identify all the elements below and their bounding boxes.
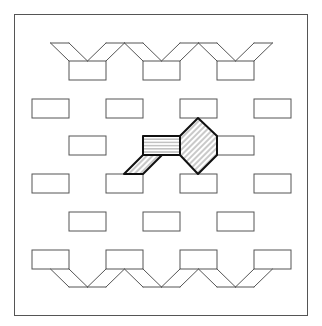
rectangle-tile xyxy=(254,174,291,193)
rectangle-tile xyxy=(217,212,254,231)
rectangle-tile xyxy=(69,61,106,80)
highlighted-rectangle xyxy=(143,136,180,155)
rectangle-tile xyxy=(32,174,69,193)
tessellation-diagram xyxy=(0,0,322,326)
rectangle-tile xyxy=(106,174,143,193)
rectangle-tile xyxy=(69,136,106,155)
rectangle-tile xyxy=(217,136,254,155)
rectangle-tile xyxy=(106,99,143,118)
tile-lines xyxy=(32,43,291,287)
rectangle-tile xyxy=(32,99,69,118)
rectangle-tile xyxy=(143,61,180,80)
rectangle-tile xyxy=(69,212,106,231)
highlighted-tiles xyxy=(124,118,217,174)
highlighted-hexagon xyxy=(180,118,217,174)
highlighted-parallelogram xyxy=(124,155,162,174)
rectangle-tile xyxy=(180,174,217,193)
rectangle-tile xyxy=(32,250,69,269)
rectangle-tile xyxy=(254,99,291,118)
rectangle-tile xyxy=(106,250,143,269)
rectangle-tile xyxy=(180,250,217,269)
rectangle-tile xyxy=(217,61,254,80)
rectangle-tile xyxy=(143,212,180,231)
rectangle-tile xyxy=(180,99,217,118)
rectangle-tile xyxy=(254,250,291,269)
